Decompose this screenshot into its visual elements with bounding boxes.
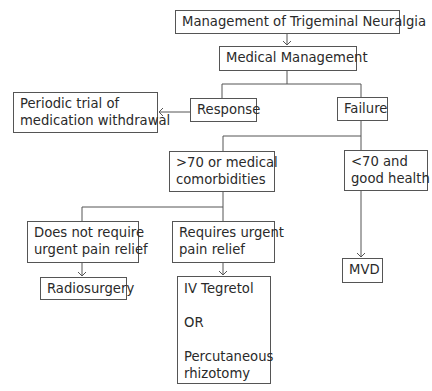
node-iv-line-4: rhizotomy [184, 365, 264, 382]
node-under70-line-1: <70 and [351, 153, 421, 170]
node-under-70: <70 and good health [344, 150, 428, 191]
node-periodic-line-1: Periodic trial of [20, 95, 151, 112]
node-root-label: Management of Trigeminal Neuralgia [182, 13, 393, 30]
node-mvd: MVD [342, 258, 383, 283]
node-periodic-line-2: medication withdrawal [20, 112, 151, 129]
node-over70-line-1: >70 or medical [176, 154, 268, 171]
node-no-urgent-relief: Does not require urgent pain relief [27, 221, 139, 263]
node-no-urgent-line-1: Does not require [34, 224, 132, 241]
node-failure: Failure [337, 97, 388, 121]
node-no-urgent-line-2: urgent pain relief [34, 241, 132, 258]
node-iv-line-3: Percutaneous [184, 348, 264, 365]
node-urgent-line-2: pain relief [179, 241, 268, 258]
node-iv-line-2: OR [184, 314, 264, 331]
node-under70-line-2: good health [351, 170, 421, 187]
node-over-70: >70 or medical comorbidities [169, 151, 275, 192]
node-radiosurgery: Radiosurgery [40, 277, 127, 300]
node-medical-label: Medical Management [226, 49, 350, 66]
node-iv-tegretol-or-rhizotomy: IV Tegretol OR Percutaneous rhizotomy [177, 276, 271, 384]
node-failure-label: Failure [344, 100, 381, 117]
node-iv-line-1: IV Tegretol [184, 280, 264, 297]
node-mvd-label: MVD [349, 261, 376, 278]
node-over70-line-2: comorbidities [176, 171, 268, 188]
node-periodic-trial: Periodic trial of medication withdrawal [13, 92, 158, 133]
node-urgent-line-1: Requires urgent [179, 224, 268, 241]
node-response: Response [190, 98, 257, 122]
node-response-label: Response [197, 101, 250, 118]
node-root: Management of Trigeminal Neuralgia [175, 10, 400, 34]
node-urgent-relief: Requires urgent pain relief [172, 221, 275, 263]
node-medical-management: Medical Management [219, 46, 357, 71]
flowchart: Management of Trigeminal Neuralgia Medic… [0, 0, 432, 391]
node-radiosurgery-label: Radiosurgery [47, 280, 120, 297]
spacer [184, 331, 264, 348]
spacer [184, 297, 264, 314]
